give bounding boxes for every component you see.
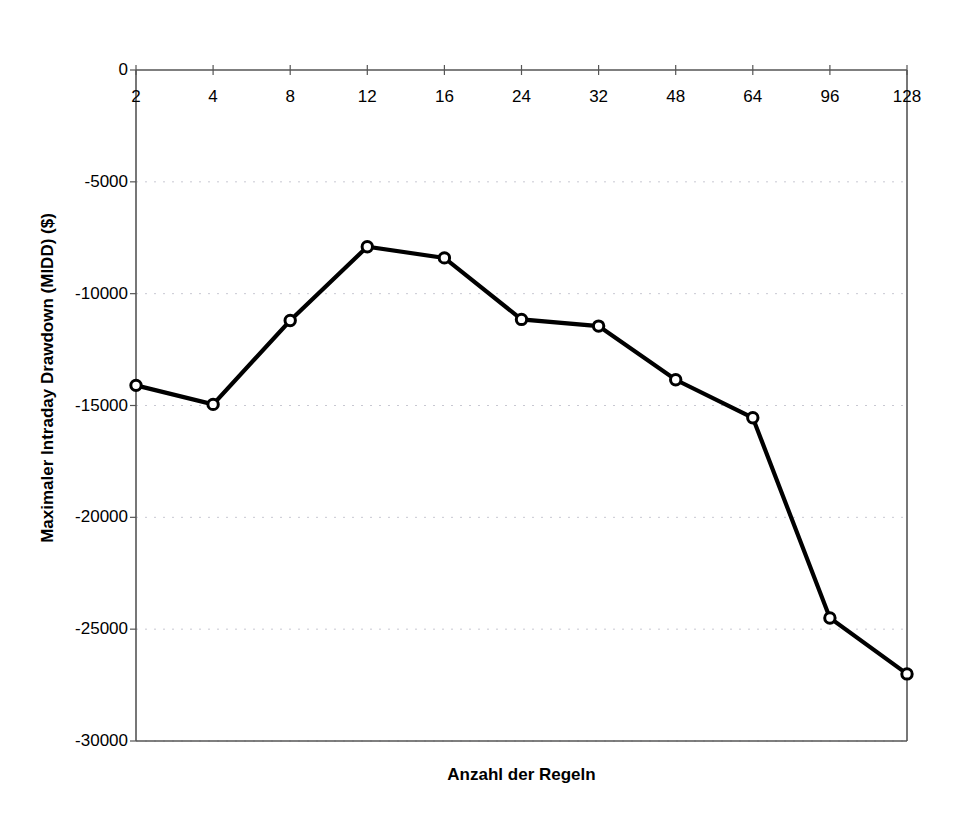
plot-area xyxy=(0,0,974,827)
y-tick-label: -15000 xyxy=(75,397,128,414)
data-point-marker xyxy=(671,375,681,385)
x-axis-title: Anzahl der Regeln xyxy=(135,765,908,785)
y-tick-label: -25000 xyxy=(75,620,128,637)
y-tick-label: -10000 xyxy=(75,285,128,302)
data-point-marker xyxy=(131,380,141,390)
y-axis-tick-marks xyxy=(130,70,136,741)
chart-container: Maximaler Intraday Drawdown (MIDD) ($) A… xyxy=(0,0,974,827)
x-tick-label: 64 xyxy=(713,88,793,105)
gridlines xyxy=(136,182,907,741)
data-point-marker xyxy=(362,241,372,251)
y-tick-label: -5000 xyxy=(85,173,128,190)
y-tick-label: -20000 xyxy=(75,508,128,525)
data-point-marker xyxy=(208,399,218,409)
data-point-marker xyxy=(593,321,603,331)
x-tick-label: 32 xyxy=(559,88,639,105)
data-point-marker xyxy=(902,669,912,679)
series-polyline xyxy=(136,247,907,674)
x-tick-label: 128 xyxy=(867,88,947,105)
x-tick-label: 16 xyxy=(404,88,484,105)
data-point-marker xyxy=(439,253,449,263)
x-tick-label: 8 xyxy=(250,88,330,105)
data-point-marker xyxy=(516,314,526,324)
y-tick-label: -30000 xyxy=(75,732,128,749)
data-line-midd xyxy=(136,247,907,674)
x-tick-label: 48 xyxy=(636,88,716,105)
axis-lines xyxy=(136,70,907,741)
x-tick-label: 2 xyxy=(96,88,176,105)
x-tick-label: 12 xyxy=(327,88,407,105)
x-tick-label: 96 xyxy=(790,88,870,105)
y-tick-label: 0 xyxy=(119,61,128,78)
data-point-marker xyxy=(285,315,295,325)
x-tick-label: 24 xyxy=(482,88,562,105)
y-axis-title: Maximaler Intraday Drawdown (MIDD) ($) xyxy=(38,108,58,648)
data-markers-midd xyxy=(131,241,912,679)
data-point-marker xyxy=(748,413,758,423)
x-tick-label: 4 xyxy=(173,88,253,105)
data-point-marker xyxy=(825,613,835,623)
